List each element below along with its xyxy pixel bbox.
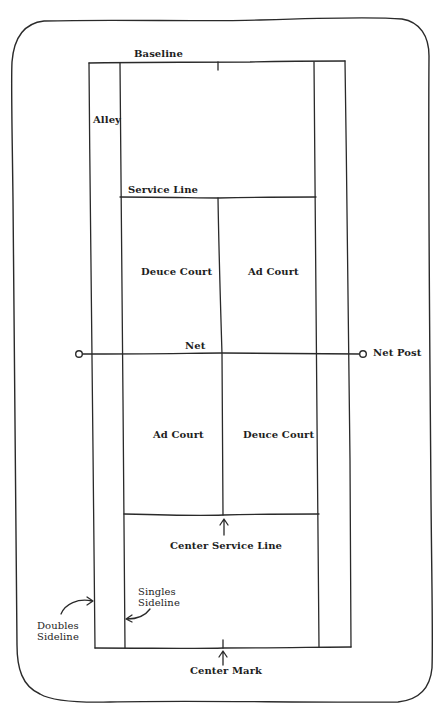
center-service-line [218,198,223,515]
ad-court-bottom-label: Ad Court [153,429,204,440]
service-line-label: Service Line [128,184,198,195]
singles-sideline-label: Singles Sideline [138,586,180,608]
center-service-line-label: Center Service Line [170,540,282,551]
left-net-post-icon [76,351,83,358]
ad-court-top-label: Ad Court [248,266,299,277]
net-line [82,353,360,354]
right-net-post-icon [360,351,367,358]
left-singles-sideline [120,63,125,648]
top-baseline [89,61,345,63]
net-post-label: Net Post [373,347,422,358]
deuce-court-top-label: Deuce Court [141,266,212,277]
center-mark-arrow-icon [219,651,227,665]
left-doubles-sideline [89,63,95,648]
baseline-label: Baseline [134,48,183,59]
alley-label: Alley [93,114,121,125]
center-mark-label: Center Mark [190,665,262,676]
right-singles-sideline [314,62,319,647]
center-service-line-arrow-icon [220,519,228,535]
doubles-sideline-arrow-icon [61,597,93,614]
doubles-sideline-label: Doubles Sideline [37,620,79,642]
deuce-court-bottom-label: Deuce Court [243,429,314,440]
singles-sideline-arrow-icon [126,609,150,622]
bottom-service-line [124,514,319,515]
net-label: Net [185,340,205,351]
